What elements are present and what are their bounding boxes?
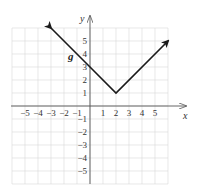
y-axis-label: y (79, 13, 85, 24)
y-tick-label: −5 (77, 166, 87, 176)
y-tick-label: 1 (83, 88, 88, 98)
x-tick-label: −3 (46, 108, 56, 118)
y-tick-label: 4 (83, 49, 88, 59)
x-tick-label: 3 (127, 108, 132, 118)
function-g-label: g (67, 50, 74, 62)
y-tick-label: −1 (77, 114, 87, 124)
y-tick-label: −2 (77, 127, 87, 137)
x-tick-label: −2 (59, 108, 69, 118)
x-tick-label: 1 (101, 108, 106, 118)
y-tick-label: −3 (77, 140, 87, 150)
x-tick-labels: −5−4−3−2−112345 (20, 108, 158, 118)
y-tick-label: −4 (77, 153, 87, 163)
x-tick-label: 4 (140, 108, 145, 118)
x-tick-label: 5 (153, 108, 158, 118)
x-tick-label: 2 (114, 108, 119, 118)
x-tick-label: −4 (33, 108, 43, 118)
x-axis-label: x (182, 110, 188, 121)
y-tick-label: 5 (83, 36, 88, 46)
x-tick-label: −5 (20, 108, 30, 118)
y-tick-label: 2 (83, 75, 88, 85)
coordinate-plane: −5−4−3−2−112345 54321−1−2−3−4−5 x y g (0, 0, 197, 195)
